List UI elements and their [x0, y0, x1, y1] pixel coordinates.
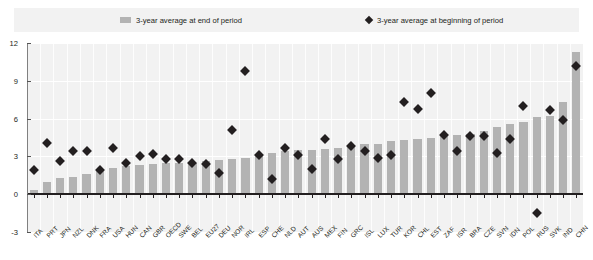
x-tick-mark: [523, 195, 524, 198]
x-tick-mark: [338, 195, 339, 198]
zero-line: [27, 193, 583, 195]
diamond-marker: [518, 101, 528, 111]
y-axis-line: [27, 43, 28, 232]
x-tick-mark: [563, 195, 564, 198]
diamond-marker: [82, 146, 92, 156]
bar: [149, 164, 157, 194]
x-tick-mark: [140, 195, 141, 198]
bar: [69, 177, 77, 195]
x-tick-mark: [259, 195, 260, 198]
y-tick-mark: [27, 43, 31, 44]
gridline-vertical: [437, 43, 438, 232]
x-tick-mark: [34, 195, 35, 198]
bar: [374, 144, 382, 194]
bar: [162, 163, 170, 195]
gridline-vertical: [331, 43, 332, 232]
bar: [440, 136, 448, 194]
chart-legend: 3-year average at end of period 3-year a…: [14, 8, 579, 32]
gridline-vertical: [358, 43, 359, 232]
diamond-marker: [320, 134, 330, 144]
x-tick-mark: [497, 195, 498, 198]
gridline-vertical: [265, 43, 266, 232]
gridline-vertical: [424, 43, 425, 232]
gridline-vertical: [543, 43, 544, 232]
gridline-vertical: [252, 43, 253, 232]
x-tick-mark: [219, 195, 220, 198]
bar: [466, 134, 474, 194]
gridline-vertical: [120, 43, 121, 232]
gridline-vertical: [451, 43, 452, 232]
bar: [228, 159, 236, 194]
legend-item-bar: 3-year average at end of period: [120, 8, 242, 32]
bar: [546, 116, 554, 194]
x-tick-mark: [470, 195, 471, 198]
gridline-vertical: [557, 43, 558, 232]
bar: [56, 178, 64, 194]
gridline-vertical: [292, 43, 293, 232]
bar: [413, 139, 421, 194]
gridline-vertical: [186, 43, 187, 232]
x-tick-mark: [232, 195, 233, 198]
y-axis-tick-label: 3: [14, 152, 18, 161]
y-axis-tick-label: 0: [14, 190, 18, 199]
bar: [122, 166, 130, 194]
x-tick-mark: [365, 195, 366, 198]
x-tick-mark: [391, 195, 392, 198]
gridline-vertical: [40, 43, 41, 232]
y-tick-mark: [27, 194, 31, 195]
gridline-vertical: [490, 43, 491, 232]
x-tick-mark: [47, 195, 48, 198]
x-tick-mark: [192, 195, 193, 198]
gridline-vertical: [411, 43, 412, 232]
x-tick-mark: [431, 195, 432, 198]
diamond-marker: [42, 138, 52, 148]
x-tick-mark: [404, 195, 405, 198]
y-tick-mark: [27, 81, 31, 82]
gridline-vertical: [106, 43, 107, 232]
x-tick-mark: [312, 195, 313, 198]
x-tick-mark: [418, 195, 419, 198]
x-tick-mark: [179, 195, 180, 198]
legend-bar-swatch-icon: [120, 17, 131, 23]
gridline-vertical: [146, 43, 147, 232]
gridline-vertical: [371, 43, 372, 232]
bar: [321, 149, 329, 194]
y-axis-tick-label: 6: [14, 114, 18, 123]
diamond-marker: [108, 143, 118, 153]
gridline-vertical: [279, 43, 280, 232]
gridline-vertical: [226, 43, 227, 232]
x-tick-mark: [484, 195, 485, 198]
y-tick-mark: [27, 119, 31, 120]
x-tick-mark: [298, 195, 299, 198]
gridline-vertical: [398, 43, 399, 232]
bar: [135, 165, 143, 194]
gridline-vertical: [199, 43, 200, 232]
y-axis-tick-label: 12: [10, 39, 18, 48]
gridline-vertical: [517, 43, 518, 232]
diamond-marker: [29, 165, 39, 175]
x-tick-mark: [576, 195, 577, 198]
diamond-marker: [227, 125, 237, 135]
gridline-vertical: [173, 43, 174, 232]
bar: [572, 52, 580, 194]
gridline-vertical: [583, 43, 584, 232]
diamond-marker: [68, 146, 78, 156]
gridline-vertical: [212, 43, 213, 232]
bar: [175, 163, 183, 195]
bar: [533, 117, 541, 194]
gridline-vertical: [133, 43, 134, 232]
x-tick-mark: [206, 195, 207, 198]
x-tick-mark: [510, 195, 511, 198]
y-tick-mark: [27, 232, 31, 233]
diamond-marker: [426, 88, 436, 98]
gridline-vertical: [345, 43, 346, 232]
gridline-vertical: [530, 43, 531, 232]
x-tick-mark: [457, 195, 458, 198]
diamond-marker: [55, 156, 65, 166]
bar: [82, 174, 90, 194]
y-axis-labels: 129630-3: [0, 43, 24, 232]
x-tick-mark: [444, 195, 445, 198]
chart-root: 3-year average at end of period 3-year a…: [0, 0, 593, 260]
gridline-vertical: [384, 43, 385, 232]
diamond-marker: [532, 208, 542, 218]
